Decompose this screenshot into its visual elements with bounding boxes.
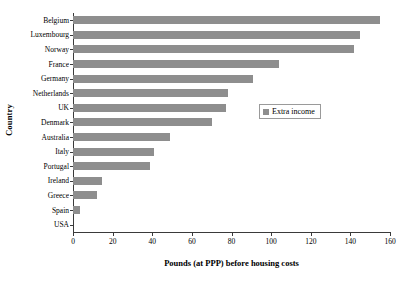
plot-area: BelgiumLuxembourgNorwayFranceGermanyNeth… bbox=[73, 13, 390, 232]
bar-row: Ireland bbox=[73, 174, 390, 189]
x-axis-tick bbox=[390, 232, 391, 236]
y-axis-tick bbox=[70, 49, 73, 50]
bar-row: Luxembourg bbox=[73, 28, 390, 43]
y-axis-tick bbox=[70, 108, 73, 109]
y-axis-tick bbox=[70, 20, 73, 21]
y-axis-tick bbox=[70, 225, 73, 226]
bar-row: Australia bbox=[73, 130, 390, 145]
bar-chart: Country BelgiumLuxembourgNorwayFranceGer… bbox=[0, 0, 413, 281]
y-axis-title: Country bbox=[2, 0, 16, 240]
bar bbox=[73, 148, 154, 156]
category-label: Australia bbox=[42, 133, 70, 142]
category-label: Greece bbox=[48, 191, 69, 200]
legend-swatch-icon bbox=[263, 109, 269, 115]
x-axis-tick bbox=[152, 232, 153, 236]
y-axis-tick bbox=[70, 181, 73, 182]
bar-row: Germany bbox=[73, 71, 390, 86]
x-axis-tick bbox=[192, 232, 193, 236]
bar bbox=[73, 31, 360, 39]
y-axis-tick bbox=[70, 195, 73, 196]
x-axis-tick-label: 20 bbox=[109, 237, 117, 246]
category-label: Portugal bbox=[44, 162, 69, 171]
bar bbox=[73, 75, 253, 83]
bar-row: USA bbox=[73, 217, 390, 232]
y-axis-tick bbox=[70, 122, 73, 123]
x-axis-tick bbox=[311, 232, 312, 236]
x-axis-tick bbox=[73, 232, 74, 236]
bar-row: Spain bbox=[73, 203, 390, 218]
y-axis-tick bbox=[70, 93, 73, 94]
category-label: Ireland bbox=[48, 176, 69, 185]
bar bbox=[73, 206, 80, 214]
bar-row: Belgium bbox=[73, 13, 390, 28]
bar bbox=[73, 60, 279, 68]
x-axis-tick bbox=[350, 232, 351, 236]
bar-row: Portugal bbox=[73, 159, 390, 174]
y-axis-tick bbox=[70, 64, 73, 65]
bar bbox=[73, 118, 212, 126]
x-axis-tick-label: 120 bbox=[305, 237, 316, 246]
x-axis-tick-label: 100 bbox=[266, 237, 277, 246]
bar bbox=[73, 89, 228, 97]
chart-legend: Extra income bbox=[259, 104, 321, 119]
category-label: Germany bbox=[41, 74, 69, 83]
category-label: UK bbox=[58, 103, 69, 112]
bar bbox=[73, 162, 150, 170]
category-label: Belgium bbox=[43, 16, 69, 25]
category-label: Spain bbox=[52, 206, 69, 215]
category-label: Denmark bbox=[41, 118, 69, 127]
x-axis-tick-label: 60 bbox=[188, 237, 196, 246]
x-axis-tick-label: 0 bbox=[71, 237, 75, 246]
bar bbox=[73, 16, 380, 24]
bar-row: UK bbox=[73, 101, 390, 116]
y-axis-tick bbox=[70, 210, 73, 211]
category-label: Italy bbox=[55, 147, 69, 156]
y-axis-tick bbox=[70, 35, 73, 36]
bar bbox=[73, 45, 354, 53]
x-axis-tick-label: 160 bbox=[384, 237, 395, 246]
x-axis-tick bbox=[271, 232, 272, 236]
bar-row: France bbox=[73, 57, 390, 72]
category-label: Luxembourg bbox=[30, 30, 69, 39]
y-axis-tick bbox=[70, 137, 73, 138]
bar-row: Norway bbox=[73, 42, 390, 57]
category-label: Netherlands bbox=[33, 89, 69, 98]
category-label: USA bbox=[54, 220, 69, 229]
bar-row: Netherlands bbox=[73, 86, 390, 101]
x-axis-tick bbox=[113, 232, 114, 236]
x-axis-tick-label: 140 bbox=[345, 237, 356, 246]
bar-row: Denmark bbox=[73, 115, 390, 130]
bar-row: Greece bbox=[73, 188, 390, 203]
legend-entry-label: Extra income bbox=[272, 107, 315, 116]
x-axis-title: Pounds (at PPP) before housing costs bbox=[73, 258, 390, 268]
category-label: France bbox=[49, 60, 69, 69]
bar bbox=[73, 191, 97, 199]
x-axis-tick bbox=[232, 232, 233, 236]
x-axis-tick-label: 80 bbox=[228, 237, 236, 246]
y-axis-tick bbox=[70, 166, 73, 167]
category-label: Norway bbox=[45, 45, 69, 54]
x-axis-tick-label: 40 bbox=[149, 237, 157, 246]
y-axis-tick bbox=[70, 79, 73, 80]
bar bbox=[73, 104, 226, 112]
bar bbox=[73, 133, 170, 141]
bar bbox=[73, 177, 102, 185]
y-axis-tick bbox=[70, 152, 73, 153]
y-axis-title-text: Country bbox=[4, 104, 14, 136]
bar-row: Italy bbox=[73, 144, 390, 159]
